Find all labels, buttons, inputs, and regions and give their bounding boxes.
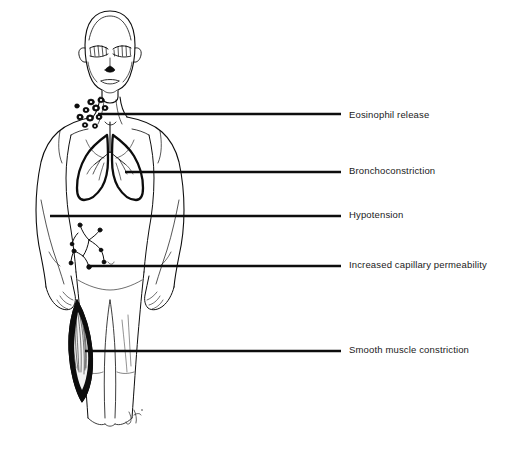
label-eosinophil-release: Eosinophil release (349, 110, 429, 120)
anatomy-illustration (0, 0, 508, 458)
label-increased-capillary-permeability: Increased capillary permeability (349, 260, 487, 270)
label-bronchoconstriction: Bronchoconstriction (349, 166, 435, 176)
anaphylaxis-diagram: Eosinophil release Bronchoconstriction H… (0, 0, 508, 458)
label-hypotension: Hypotension (349, 210, 403, 220)
label-smooth-muscle-constriction: Smooth muscle constriction (349, 345, 469, 355)
